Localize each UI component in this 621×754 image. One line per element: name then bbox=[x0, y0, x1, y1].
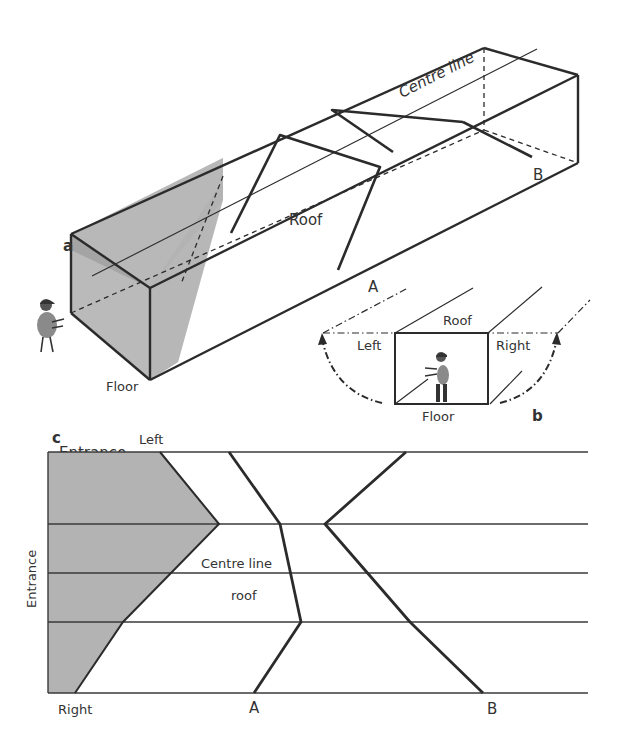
person-icon bbox=[37, 299, 64, 352]
crack-b-3d-roof bbox=[332, 110, 463, 152]
arrow-head-left-icon bbox=[318, 333, 327, 345]
panel-b-floor-label: Floor bbox=[422, 409, 455, 424]
panel-c-crack-b-label: B bbox=[487, 700, 497, 718]
panel-c-label: c bbox=[52, 429, 61, 447]
arrow-head-right-icon bbox=[552, 332, 561, 345]
panel-a-label: a bbox=[63, 237, 73, 255]
panel-c-left-label: Left bbox=[139, 432, 163, 447]
panel-b-label: b bbox=[532, 407, 543, 425]
centre-line bbox=[92, 49, 537, 276]
crack-b-3d-wall bbox=[463, 122, 532, 157]
unfold-right-diagonal bbox=[558, 300, 590, 333]
floor-right-perspective bbox=[490, 371, 522, 404]
panel-b-right-label: Right bbox=[496, 338, 530, 353]
panel-c-entrance-label: Entrance bbox=[24, 550, 39, 608]
panel-c: c Left Right Entrance Centre line roof A… bbox=[24, 429, 588, 718]
crack-b-label: B bbox=[533, 166, 543, 184]
floor-left-perspective bbox=[395, 379, 428, 404]
roof-label: Roof bbox=[289, 211, 323, 229]
panel-c-roof-label: roof bbox=[231, 588, 257, 603]
crack-a-3d bbox=[231, 135, 380, 270]
panel-b-left-label: Left bbox=[357, 338, 381, 353]
floor-label: Floor bbox=[106, 379, 139, 394]
panel-c-centre-line-label: Centre line bbox=[201, 556, 272, 571]
unfold-left-diagonal bbox=[323, 288, 408, 333]
tunnel-mapping-diagram: a Centre line Roof Floor Entrance A B bbox=[0, 0, 621, 754]
crack-a-label: A bbox=[368, 278, 379, 296]
person-icon bbox=[425, 352, 449, 402]
panel-b: Roof Left Right Floor b bbox=[318, 287, 590, 425]
panel-b-roof-label: Roof bbox=[443, 313, 472, 328]
panel-a: a Centre line Roof Floor Entrance A B bbox=[37, 48, 578, 462]
roof-right-perspective bbox=[488, 287, 542, 333]
hidden-edge-far-bottom bbox=[484, 130, 578, 163]
panel-c-crack-a-label: A bbox=[249, 699, 260, 717]
panel-c-right-label: Right bbox=[58, 702, 92, 717]
centre-line-label: Centre line bbox=[396, 48, 478, 101]
